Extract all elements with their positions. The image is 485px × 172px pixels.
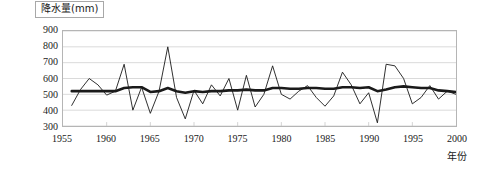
- chart-figure: 降水量(mm) 900800700600500400300 1955196019…: [0, 0, 485, 172]
- x-axis-tick: 1975: [218, 133, 258, 144]
- x-axis-tick: 1990: [349, 133, 389, 144]
- x-axis-tick: 1965: [130, 133, 170, 144]
- x-axis-tick-labels: 1955196019651970197519801985199019952000: [0, 0, 485, 172]
- x-axis-title: 年份: [447, 148, 467, 163]
- x-axis-tick: 1985: [305, 133, 345, 144]
- x-axis-tick: 1970: [174, 133, 214, 144]
- x-axis-tick: 1995: [393, 133, 433, 144]
- x-axis-tick: 1960: [86, 133, 126, 144]
- x-axis-tick: 1980: [261, 133, 301, 144]
- x-axis-tick: 1955: [42, 133, 82, 144]
- x-axis-tick: 2000: [437, 133, 477, 144]
